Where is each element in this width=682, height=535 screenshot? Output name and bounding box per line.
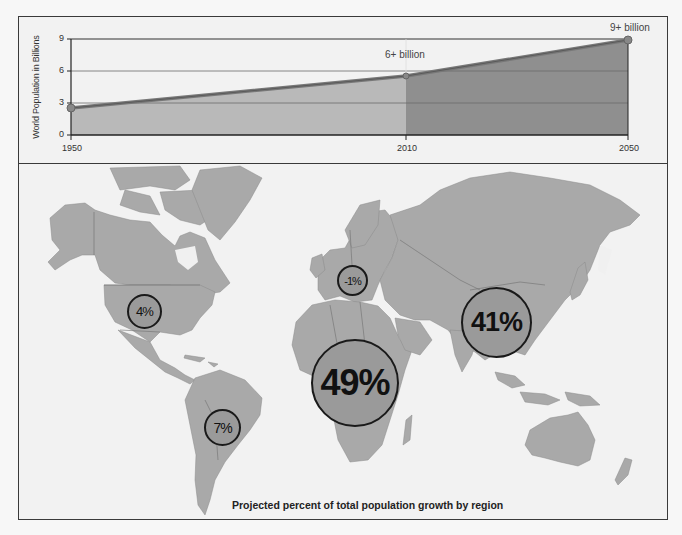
central-america: [118, 330, 195, 384]
bubble-asia: 41%: [461, 287, 532, 358]
new-zealand: [615, 458, 632, 485]
bubble-europe: -1%: [337, 265, 368, 296]
madagascar: [403, 415, 412, 445]
map-caption: Projected percent of total population gr…: [232, 499, 503, 511]
australia: [525, 412, 595, 466]
caribbean: [184, 355, 218, 367]
greenland: [192, 166, 262, 240]
bubble-south-america: 7%: [204, 409, 241, 446]
bubble-north-america: 4%: [127, 294, 162, 329]
bubble-africa: 49%: [311, 339, 399, 427]
world-map: [0, 0, 682, 535]
southeast-asia: [495, 372, 600, 406]
